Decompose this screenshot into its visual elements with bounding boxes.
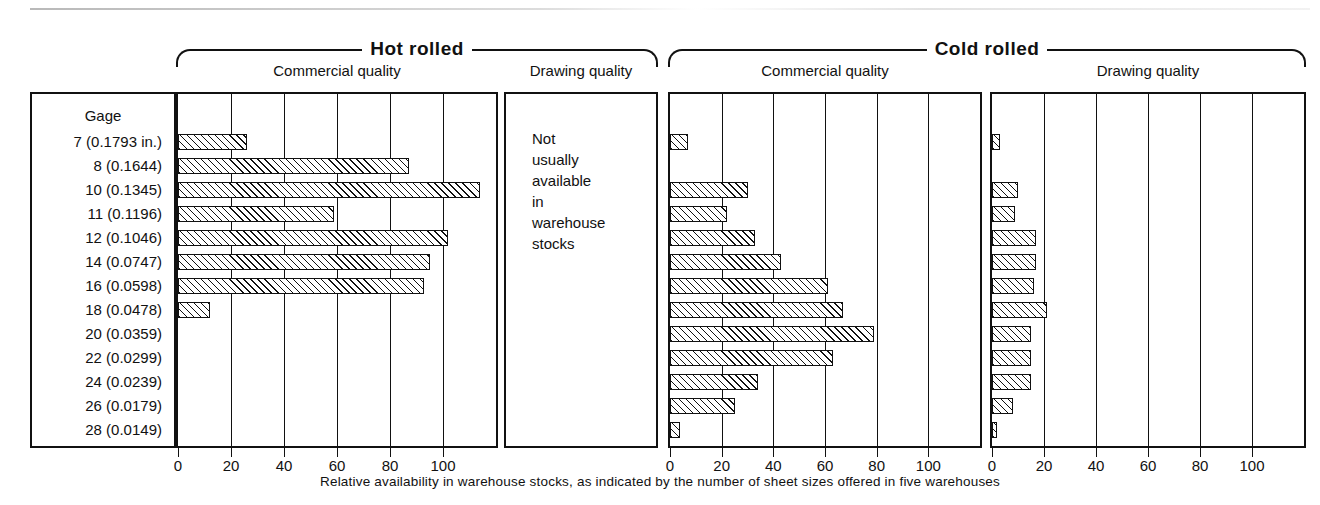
figure-caption: Relative availability in warehouse stock… xyxy=(0,474,1320,489)
subtitle-hot-drawing: Drawing quality xyxy=(504,62,658,79)
gage-label: 12 (0.1046) xyxy=(85,226,162,250)
axis-tick-label: 60 xyxy=(317,457,357,474)
gage-column-header: Gage xyxy=(32,107,174,124)
axis-tick-label: 40 xyxy=(264,457,304,474)
bar xyxy=(992,206,1015,222)
axis-tick-label: 100 xyxy=(908,457,948,474)
bar xyxy=(992,230,1036,246)
bar xyxy=(992,374,1031,390)
group-title: Hot rolled xyxy=(176,38,658,60)
axis-tick xyxy=(1200,448,1201,457)
bar xyxy=(670,326,874,342)
bar xyxy=(992,326,1031,342)
axis-tick xyxy=(1252,448,1253,457)
gage-label: 14 (0.0747) xyxy=(85,250,162,274)
bar xyxy=(670,398,735,414)
axis-tick xyxy=(231,448,232,457)
bar xyxy=(178,254,430,270)
note-line: usually xyxy=(532,149,605,170)
axis-tick-label: 100 xyxy=(1232,457,1272,474)
plot-panel-cold-commercial xyxy=(668,92,982,448)
plot-panel-cold-drawing xyxy=(990,92,1306,448)
axis-tick xyxy=(928,448,929,457)
axis-tick xyxy=(1096,448,1097,457)
gage-label: 22 (0.0299) xyxy=(85,346,162,370)
subtitle-cold-commercial: Commercial quality xyxy=(668,62,982,79)
axis-tick xyxy=(443,448,444,457)
bar xyxy=(670,134,688,150)
subtitle-hot-commercial: Commercial quality xyxy=(176,62,498,79)
bar xyxy=(178,134,247,150)
gage-label: 16 (0.0598) xyxy=(85,274,162,298)
note-line: in xyxy=(532,191,605,212)
gage-label: 26 (0.0179) xyxy=(85,394,162,418)
bar xyxy=(178,278,424,294)
axis-tick-label: 80 xyxy=(370,457,410,474)
axis-tick-label: 80 xyxy=(857,457,897,474)
not-available-note: Notusuallyavailableinwarehousestocks xyxy=(532,128,605,254)
note-line: Not xyxy=(532,128,605,149)
axis-tick-label: 40 xyxy=(753,457,793,474)
axis-tick xyxy=(825,448,826,457)
bar xyxy=(992,134,1000,150)
axis-tick-label: 60 xyxy=(1128,457,1168,474)
bar xyxy=(670,230,755,246)
axis-tick-label: 20 xyxy=(702,457,742,474)
axis-tick-label: 100 xyxy=(423,457,463,474)
bar xyxy=(670,254,781,270)
gage-label: 20 (0.0359) xyxy=(85,322,162,346)
bar xyxy=(992,302,1047,318)
bar xyxy=(670,182,748,198)
axis-tick-label: 20 xyxy=(1024,457,1064,474)
bar xyxy=(992,350,1031,366)
gage-label: 24 (0.0239) xyxy=(85,370,162,394)
axis-tick xyxy=(773,448,774,457)
group-title: Cold rolled xyxy=(668,38,1306,60)
axis-tick xyxy=(992,448,993,457)
bar xyxy=(178,230,448,246)
note-line: warehouse xyxy=(532,212,605,233)
gage-label-panel: Gage 7 (0.1793 in.)8 (0.1644)10 (0.1345)… xyxy=(30,92,176,448)
bar xyxy=(670,350,833,366)
axis-tick xyxy=(178,448,179,457)
axis-tick-label: 60 xyxy=(805,457,845,474)
gage-label: 7 (0.1793 in.) xyxy=(74,130,162,154)
gage-label: 8 (0.1644) xyxy=(94,154,162,178)
bar xyxy=(670,422,680,438)
axis-tick-label: 0 xyxy=(650,457,690,474)
bar xyxy=(670,206,727,222)
axis-tick xyxy=(390,448,391,457)
bar xyxy=(670,278,828,294)
bar xyxy=(178,302,210,318)
axis-tick-label: 20 xyxy=(211,457,251,474)
axis-tick xyxy=(284,448,285,457)
axis-tick xyxy=(722,448,723,457)
gage-label: 18 (0.0478) xyxy=(85,298,162,322)
top-scan-line xyxy=(30,8,1310,10)
plot-panel-hot-commercial xyxy=(176,92,498,448)
axis-tick xyxy=(877,448,878,457)
axis-tick-label: 40 xyxy=(1076,457,1116,474)
axis-tick-label: 80 xyxy=(1180,457,1220,474)
axis-tick-label: 0 xyxy=(972,457,1012,474)
note-line: stocks xyxy=(532,233,605,254)
bar xyxy=(992,278,1034,294)
bar xyxy=(178,158,409,174)
bar xyxy=(992,182,1018,198)
bar xyxy=(992,254,1036,270)
gage-label: 11 (0.1196) xyxy=(88,202,163,226)
bar xyxy=(992,422,997,438)
axis-tick xyxy=(337,448,338,457)
gage-label: 10 (0.1345) xyxy=(85,178,162,202)
axis-tick-label: 0 xyxy=(158,457,198,474)
bar xyxy=(178,182,480,198)
note-line: available xyxy=(532,170,605,191)
bar xyxy=(992,398,1013,414)
axis-tick xyxy=(670,448,671,457)
bar xyxy=(670,302,843,318)
plot-panel-hot-drawing: Notusuallyavailableinwarehousestocks xyxy=(504,92,658,448)
axis-tick xyxy=(1044,448,1045,457)
axis-tick xyxy=(1148,448,1149,457)
bar xyxy=(670,374,758,390)
subtitle-cold-drawing: Drawing quality xyxy=(990,62,1306,79)
